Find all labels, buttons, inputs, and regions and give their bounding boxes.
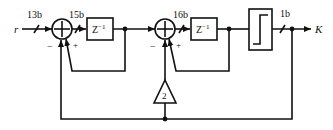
input-label: r <box>14 23 19 35</box>
summer1-plus-sign: + <box>73 40 78 50</box>
output-label: K <box>314 23 323 35</box>
gain-label: 2 <box>162 91 167 101</box>
bus-width-output: 1b <box>280 8 290 19</box>
summer2-plus-sign: + <box>176 40 181 50</box>
bus-width-summer1: 15b <box>69 9 84 20</box>
bus-width-input: 13b <box>27 9 42 20</box>
summer-1 <box>52 19 72 39</box>
summer1-minus-sign: − <box>47 41 53 52</box>
summer-2 <box>155 19 175 39</box>
summer2-minus-sign: − <box>150 41 156 52</box>
sigma-delta-modulator-diagram: r 13b − + 15b Z−1 − + 16b Z−1 1b K <box>0 0 333 130</box>
bus-width-summer2: 16b <box>173 9 188 20</box>
